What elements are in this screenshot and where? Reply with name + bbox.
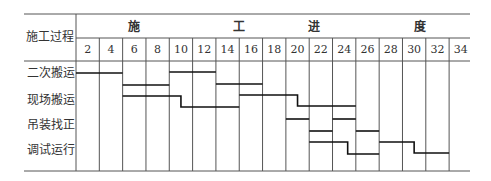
gantt-bar — [239, 95, 356, 106]
x-tick-label: 14 — [221, 43, 235, 56]
x-tick-label: 24 — [337, 43, 351, 56]
x-tick-label: 8 — [154, 43, 161, 56]
x-tick-label: 20 — [291, 43, 305, 56]
x-tick-label: 22 — [314, 43, 328, 56]
x-tick-label: 4 — [107, 43, 114, 56]
x-tick-label: 32 — [430, 43, 444, 56]
x-tick-label: 28 — [384, 43, 398, 56]
task-labels: 二次搬运现场搬运吊装找正调试运行 — [27, 65, 75, 157]
progress-header-char: 进 — [308, 19, 320, 34]
x-tick-label: 10 — [174, 43, 188, 56]
x-tick-label: 16 — [244, 43, 258, 56]
gantt-bar — [379, 142, 449, 153]
gantt-bar — [123, 96, 240, 107]
gantt-bar — [309, 142, 379, 154]
task-label: 吊装找正 — [27, 118, 75, 132]
progress-header-char: 施 — [128, 19, 140, 34]
grid-lines — [24, 14, 470, 171]
construction-schedule-chart: 246810121416182022242628303234施工过程施工进度 二… — [0, 0, 491, 181]
x-tick-label: 12 — [197, 43, 211, 56]
x-tick-label: 26 — [361, 43, 375, 56]
progress-header-char: 度 — [414, 19, 427, 34]
x-tick-label: 34 — [454, 43, 468, 56]
x-tick-label: 18 — [267, 43, 281, 56]
task-label: 二次搬运 — [27, 65, 75, 80]
x-tick-label: 2 — [84, 43, 91, 56]
row-header-label: 施工过程 — [26, 29, 74, 44]
task-label: 现场搬运 — [27, 92, 75, 107]
progress-header-char: 工 — [233, 20, 245, 34]
x-tick-label: 6 — [131, 43, 138, 56]
task-label: 调试运行 — [27, 142, 75, 157]
x-tick-label: 30 — [407, 43, 421, 56]
